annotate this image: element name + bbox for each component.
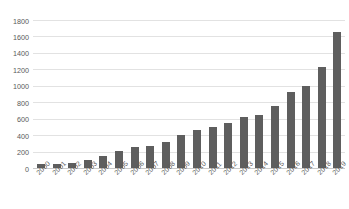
y-tick-label: 400	[0, 132, 29, 141]
bar	[287, 92, 295, 168]
bar	[271, 106, 279, 168]
bar	[318, 67, 326, 168]
bar-chart: 1800 1600 1400 1200 1000 800 600 400 200…	[0, 0, 349, 209]
y-tick-label: 1000	[0, 82, 29, 91]
y-tick-label: 1600	[0, 33, 29, 42]
y-tick-label: 200	[0, 148, 29, 157]
bar	[333, 32, 341, 168]
bar	[240, 117, 248, 168]
y-tick-label: 1800	[0, 17, 29, 26]
y-tick-label: 1200	[0, 66, 29, 75]
y-tick-label: 600	[0, 115, 29, 124]
x-axis: 2000 2001 2002 2003 2004 2005 2006 2007 …	[33, 168, 345, 209]
y-tick-label: 0	[0, 165, 29, 174]
bar	[302, 86, 310, 168]
y-tick-label: 800	[0, 99, 29, 108]
bar-series	[33, 20, 345, 168]
y-tick-label: 1400	[0, 49, 29, 58]
